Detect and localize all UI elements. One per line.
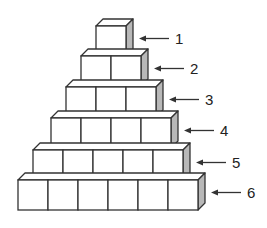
layer-label-6: 6 <box>211 184 255 201</box>
layer-label-5: 5 <box>196 154 240 171</box>
layer-number: 2 <box>190 60 198 77</box>
arrow-left-icon <box>139 36 146 42</box>
cube <box>48 180 78 210</box>
cubes-group <box>18 19 205 210</box>
cube <box>18 180 48 210</box>
arrow-left-icon <box>184 128 191 134</box>
arrow-left-icon <box>154 66 161 72</box>
layer-label-2: 2 <box>154 60 198 77</box>
layer-label-1: 1 <box>139 30 183 47</box>
layer-number: 1 <box>175 30 183 47</box>
cube <box>138 180 168 210</box>
layer-label-4: 4 <box>184 122 228 139</box>
arrow-left-icon <box>211 190 218 196</box>
cube <box>108 180 138 210</box>
layer-number: 3 <box>205 91 213 108</box>
layer-label-3: 3 <box>169 91 213 108</box>
layer-number: 6 <box>247 184 255 201</box>
arrow-left-icon <box>169 97 176 103</box>
layer-number: 5 <box>232 154 240 171</box>
cube-pyramid-diagram: 123456 <box>0 0 267 228</box>
cube <box>78 180 108 210</box>
arrow-left-icon <box>196 160 203 166</box>
layer-6 <box>18 173 205 210</box>
layer-number: 4 <box>220 122 228 139</box>
cube <box>168 180 198 210</box>
